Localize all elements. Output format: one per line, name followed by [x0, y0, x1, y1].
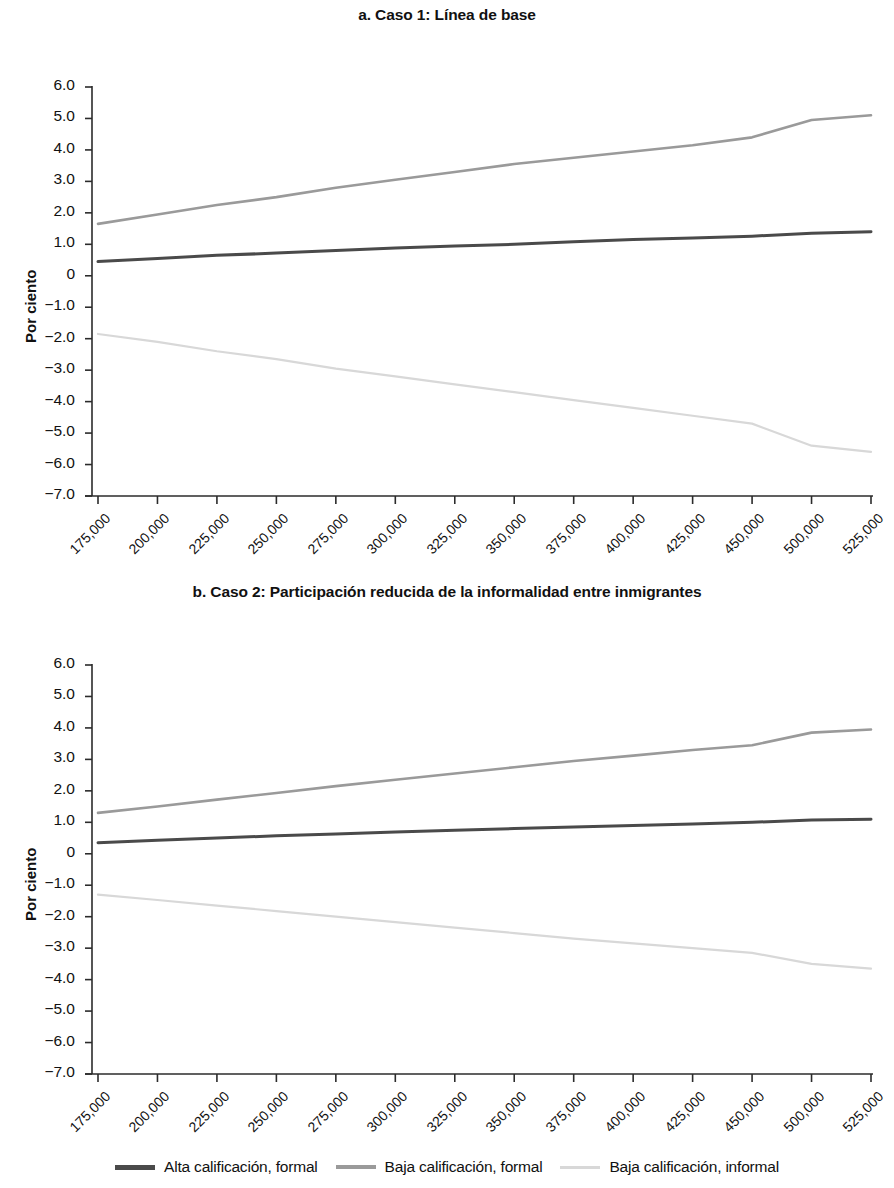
plot-a: [0, 30, 894, 560]
y-axis-title: Por ciento: [22, 269, 39, 342]
series-line-1: [98, 819, 871, 843]
legend-line-swatch-icon: [336, 1165, 376, 1169]
panel-b-plot-area: 6.05.04.03.02.01.00−1.0−2.0−3.0−4.0−5.0−…: [0, 608, 894, 1138]
series-line-2: [98, 730, 871, 813]
legend-line-swatch-icon: [560, 1166, 600, 1169]
panel-b-title: b. Caso 2: Participación reducida de la …: [0, 583, 894, 601]
legend-item-2[interactable]: Baja calificación, formal: [336, 1158, 543, 1176]
plot-b: [0, 608, 894, 1138]
legend-line-swatch-icon: [115, 1165, 155, 1170]
series-line-3: [98, 334, 871, 452]
legend-item-1[interactable]: Alta calificación, formal: [115, 1158, 318, 1176]
y-axis-title: Por ciento: [22, 847, 39, 920]
series-line-2: [98, 115, 871, 224]
legend-label: Baja calificación, informal: [609, 1158, 778, 1176]
chart-legend: Alta calificación, formalBaja calificaci…: [0, 1158, 894, 1176]
series-line-1: [98, 232, 871, 262]
series-line-3: [98, 895, 871, 969]
panel-a-plot-area: 6.05.04.03.02.01.00−1.0−2.0−3.0−4.0−5.0−…: [0, 30, 894, 560]
legend-item-3[interactable]: Baja calificación, informal: [560, 1158, 778, 1176]
legend-label: Alta calificación, formal: [164, 1158, 318, 1176]
panel-a-title: a. Caso 1: Línea de base: [0, 6, 894, 24]
legend-label: Baja calificación, formal: [385, 1158, 543, 1176]
